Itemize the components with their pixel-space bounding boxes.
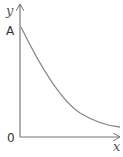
decay-curve bbox=[21, 27, 120, 127]
decay-graph: y A 0 x bbox=[0, 0, 123, 157]
x-axis-label: x bbox=[113, 139, 121, 154]
y-intercept-label: A bbox=[6, 24, 15, 38]
y-axis-label: y bbox=[5, 3, 14, 18]
origin-label: 0 bbox=[7, 131, 15, 145]
